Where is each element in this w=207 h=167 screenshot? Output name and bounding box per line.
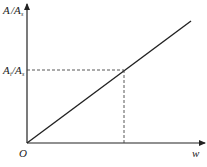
svg-text:A: A (2, 4, 10, 16)
svg-text:A: A (14, 64, 22, 76)
origin-label: O (19, 147, 27, 159)
data-line (27, 21, 191, 143)
svg-text:s: s (21, 11, 24, 17)
x-axis-label: w (192, 147, 200, 159)
svg-text:A: A (13, 4, 21, 16)
svg-text:A: A (2, 64, 10, 76)
y-axis-label: A / A s (2, 4, 24, 17)
y-tick-label: A i / A s (2, 64, 25, 77)
svg-text:s: s (22, 71, 25, 77)
diagram-canvas: A / A s A i / A s O w (0, 0, 207, 167)
